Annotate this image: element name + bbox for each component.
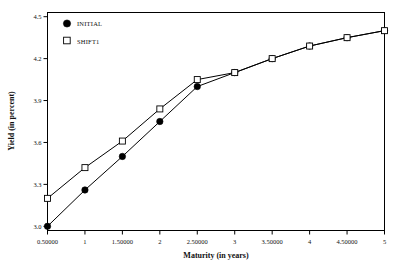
legend-label-shift1: SHIFT1 — [77, 38, 100, 45]
data-point-marker — [307, 43, 313, 49]
y-tick-label: 3.3 — [33, 181, 41, 188]
legend-marker-shift1-icon — [64, 37, 71, 44]
x-tick-label: 2 — [158, 238, 161, 245]
data-point-marker — [157, 106, 163, 112]
x-axis-title: Maturity (in years) — [183, 251, 249, 260]
data-point-marker — [232, 70, 238, 76]
data-point-marker — [157, 118, 163, 124]
x-tick-label: 2.50000 — [187, 238, 208, 245]
x-tick-label: 3 — [233, 238, 236, 245]
data-point-marker — [194, 77, 200, 83]
y-tick-label: 3.0 — [33, 223, 41, 230]
data-point-marker — [269, 56, 275, 62]
data-point-marker — [44, 223, 50, 229]
x-tick-label: 0.50000 — [37, 238, 58, 245]
data-point-marker — [194, 83, 200, 89]
data-point-marker — [382, 28, 388, 34]
y-tick-label: 4.5 — [33, 13, 41, 20]
chart-background — [0, 0, 402, 266]
x-tick-label: 5 — [383, 238, 386, 245]
data-point-marker — [119, 153, 125, 159]
legend-marker-initial-icon — [63, 20, 70, 27]
data-point-marker — [82, 165, 88, 171]
y-axis-title: Yield (in percent) — [7, 91, 16, 151]
yield-curve-chart: 3.03.33.63.94.24.5 0.5000011.5000022.500… — [0, 0, 402, 266]
y-tick-label: 3.9 — [33, 97, 41, 104]
x-tick-label: 3.50000 — [262, 238, 283, 245]
x-tick-label: 1.50000 — [112, 238, 133, 245]
chart-container: 3.03.33.63.94.24.5 0.5000011.5000022.500… — [0, 0, 402, 266]
data-point-marker — [344, 35, 350, 41]
data-point-marker — [82, 187, 88, 193]
y-tick-label: 3.6 — [33, 139, 42, 146]
y-tick-label: 4.2 — [33, 55, 41, 62]
data-point-marker — [119, 138, 125, 144]
legend-label-initial: INITIAL — [77, 20, 102, 27]
x-tick-label: 4.50000 — [336, 238, 357, 245]
data-point-marker — [45, 195, 51, 201]
x-tick-label: 1 — [83, 238, 86, 245]
